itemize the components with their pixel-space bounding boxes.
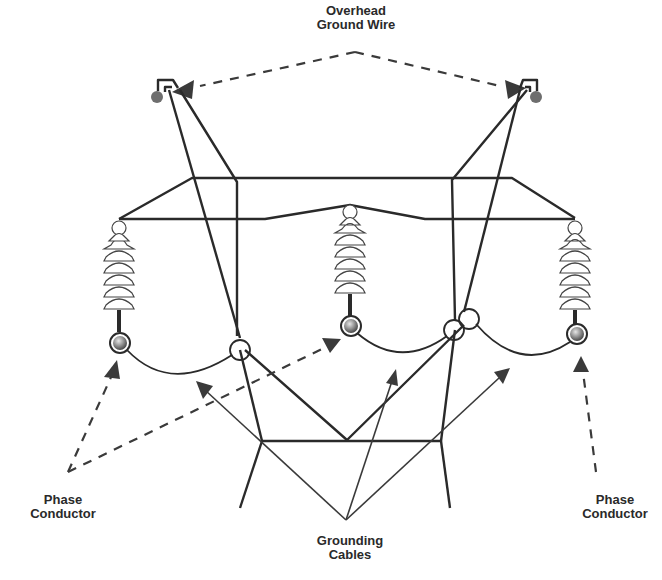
arrowhead-icon bbox=[573, 356, 589, 372]
ground-wire-ball-right bbox=[530, 91, 542, 103]
ground-wire-ball-left bbox=[151, 91, 163, 103]
phase-conductor-right bbox=[567, 324, 587, 344]
overhead-ground-wire-pointer bbox=[172, 52, 526, 99]
insulator-right bbox=[560, 221, 590, 324]
arrowhead-icon bbox=[196, 381, 213, 399]
bond-ring bbox=[459, 309, 479, 329]
arrowhead-icon bbox=[494, 368, 510, 384]
phase-conductor-left-label: Phase Conductor bbox=[18, 493, 108, 521]
tower-structure bbox=[119, 90, 575, 508]
overhead-ground-wire-label: Overhead Ground Wire bbox=[296, 4, 416, 32]
grounding-cables-label: Grounding Cables bbox=[300, 534, 400, 562]
arrowhead-icon bbox=[322, 338, 341, 353]
phase-conductor-pointers bbox=[68, 338, 596, 472]
right-ground-wire-peak bbox=[520, 80, 542, 103]
phase-conductor-right-label: Phase Conductor bbox=[570, 493, 660, 521]
insulator-center bbox=[335, 205, 365, 316]
insulator-left bbox=[104, 221, 134, 332]
arrowhead-icon bbox=[386, 369, 398, 386]
arrowhead-icon bbox=[104, 360, 120, 379]
